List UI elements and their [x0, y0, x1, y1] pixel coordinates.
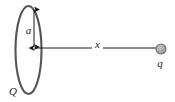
figure-background [0, 0, 175, 102]
physics-figure: a x Q q [0, 0, 175, 102]
point-charge-label: q [157, 57, 163, 69]
ring-radius-label: a [26, 24, 32, 36]
ring-charge-diagram: a x Q q [0, 0, 175, 102]
ring-charge-label: Q [9, 85, 17, 97]
axial-distance-label: x [94, 38, 100, 50]
point-charge-marker [156, 44, 166, 54]
